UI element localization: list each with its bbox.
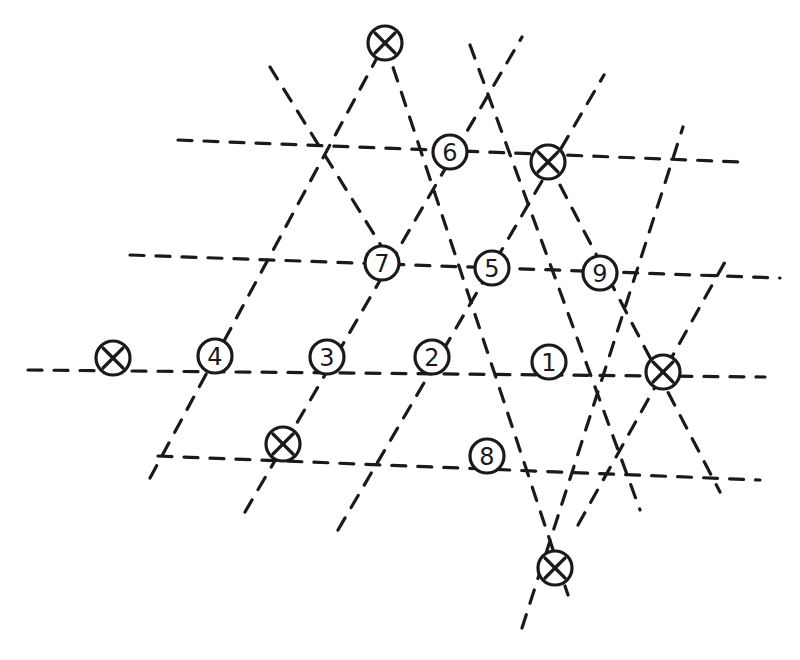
node-label: 8 <box>479 443 494 471</box>
diag-up-5-line <box>578 253 730 525</box>
node-3: 3 <box>310 340 344 374</box>
node-label: 6 <box>442 139 457 167</box>
horizontal-row-2-line <box>130 255 780 278</box>
blocked-node-x-lower-left <box>266 427 300 461</box>
horizontal-row-4-line <box>158 456 760 480</box>
node-4: 4 <box>198 339 232 373</box>
diag-down-1-line <box>270 67 395 268</box>
triangular-grid-diagram: 675943218 <box>0 0 800 660</box>
diag-down-2-line <box>385 43 568 595</box>
blocked-node-x-left <box>96 341 130 375</box>
node-label: 5 <box>484 255 499 283</box>
node-8: 8 <box>470 439 504 473</box>
node-9: 9 <box>583 256 617 290</box>
blocked-node-x-upper-right <box>531 145 565 179</box>
node-label: 4 <box>207 343 222 371</box>
blocked-node-x-bottom <box>538 551 572 585</box>
blocked-node-x-top <box>368 26 402 60</box>
node-label: 3 <box>319 344 334 372</box>
node-label: 7 <box>374 250 389 278</box>
node-label: 1 <box>541 349 556 377</box>
blocked-node-x-right <box>646 355 680 389</box>
node-5: 5 <box>475 251 509 285</box>
node-2: 2 <box>415 340 449 374</box>
node-7: 7 <box>365 246 399 280</box>
node-label: 2 <box>424 344 439 372</box>
diag-up-1-line <box>150 43 385 478</box>
node-1: 1 <box>532 345 566 379</box>
node-6: 6 <box>433 135 467 169</box>
node-label: 9 <box>592 260 607 288</box>
grid-lines <box>28 37 780 628</box>
